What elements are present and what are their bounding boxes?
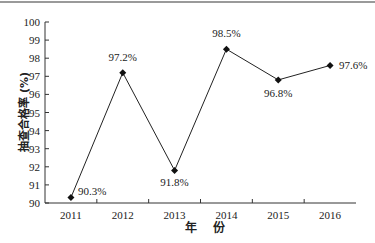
data-label: 96.8% — [264, 87, 292, 99]
x-tick-label: 2015 — [267, 209, 290, 221]
data-label: 97.2% — [109, 51, 137, 63]
diamond-marker — [275, 76, 282, 83]
diamond-marker — [223, 46, 230, 53]
data-label: 97.6% — [339, 59, 367, 71]
diamond-marker — [171, 167, 178, 174]
line-chart: 9091929394959697989910020112012201320142… — [0, 0, 375, 243]
data-line — [71, 49, 330, 197]
data-label: 90.3% — [78, 185, 106, 197]
x-tick-label: 2013 — [164, 209, 187, 221]
y-axis-title: 抽查合格率 (%) — [15, 67, 31, 157]
y-tick-label: 98 — [29, 52, 41, 64]
y-tick-label: 90 — [29, 197, 41, 209]
y-tick-label: 92 — [29, 161, 40, 173]
y-tick-label: 100 — [24, 16, 41, 28]
y-tick-label: 91 — [29, 179, 40, 191]
data-label: 91.8% — [160, 176, 188, 188]
data-label: 98.5% — [212, 27, 240, 39]
x-tick-label: 2016 — [319, 209, 342, 221]
diamond-marker — [67, 194, 74, 201]
x-tick-label: 2012 — [112, 209, 134, 221]
diamond-marker — [327, 62, 334, 69]
x-tick-label: 2011 — [60, 209, 82, 221]
y-tick-label: 99 — [29, 34, 41, 46]
x-axis-title: 年 份 — [185, 218, 231, 235]
diamond-marker — [119, 69, 126, 76]
